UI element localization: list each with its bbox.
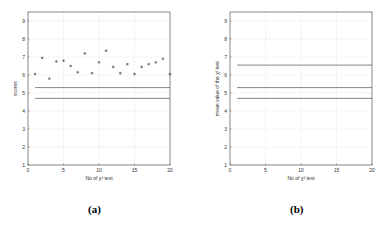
caption-b: (b) <box>290 203 303 215</box>
x-axis-label: No of χ² test <box>287 175 315 181</box>
x-tick-label: 10 <box>96 167 102 173</box>
x-tick-label: 20 <box>167 167 173 173</box>
x-tick-label: 0 <box>27 167 30 173</box>
data-point-marker <box>62 59 65 62</box>
y-tick-label: 6 <box>224 72 227 78</box>
data-point-marker <box>133 73 136 76</box>
x-tick-label: 5 <box>264 167 267 173</box>
data-point-marker <box>126 63 129 66</box>
y-tick-label: 6 <box>22 72 25 78</box>
data-point-marker <box>48 77 51 80</box>
caption-a: (a) <box>88 203 101 215</box>
y-tick-label: 8 <box>22 36 25 42</box>
y-tick-label: 2 <box>224 144 227 150</box>
x-tick-label: 0 <box>229 167 232 173</box>
y-tick-label: 9 <box>224 18 227 24</box>
data-point-marker <box>155 61 158 64</box>
y-tick-label: 9 <box>22 18 25 24</box>
data-point-marker <box>34 73 37 76</box>
data-point-marker <box>91 72 94 75</box>
data-point-marker <box>112 66 115 69</box>
data-point-marker <box>41 57 44 60</box>
data-point-marker <box>140 66 143 69</box>
data-point-marker <box>119 72 122 75</box>
scatter-plot-scores: 05101520123456789No of χ² testscores <box>0 0 195 200</box>
data-point-marker <box>76 71 79 74</box>
y-tick-label: 5 <box>224 90 227 96</box>
y-axis-label: scores <box>12 81 18 96</box>
y-axis-label: mean value of the χ² test <box>214 60 220 115</box>
data-point-marker <box>147 63 150 66</box>
y-tick-label: 5 <box>22 90 25 96</box>
x-tick-label: 10 <box>298 167 304 173</box>
data-point-marker <box>169 73 172 76</box>
x-tick-label: 5 <box>62 167 65 173</box>
x-axis-label: No of χ² test <box>85 175 113 181</box>
data-point-marker <box>98 61 101 64</box>
y-tick-label: 3 <box>22 126 25 132</box>
chart-panel-a: 05101520123456789No of χ² testscores <box>0 0 195 200</box>
y-tick-label: 1 <box>22 162 25 168</box>
x-tick-label: 20 <box>369 167 375 173</box>
y-tick-label: 3 <box>224 126 227 132</box>
line-plot-mean-value: 05101520123456789No of χ² testmean value… <box>200 0 391 200</box>
data-point-marker <box>84 52 87 55</box>
x-tick-label: 15 <box>334 167 340 173</box>
y-tick-label: 7 <box>224 54 227 60</box>
data-point-marker <box>69 65 72 68</box>
y-tick-label: 8 <box>224 36 227 42</box>
y-tick-label: 1 <box>224 162 227 168</box>
x-tick-label: 15 <box>132 167 138 173</box>
data-point-marker <box>55 60 58 63</box>
y-tick-label: 4 <box>22 108 25 114</box>
y-tick-label: 2 <box>22 144 25 150</box>
data-point-marker <box>105 49 108 52</box>
chart-panel-b: 05101520123456789No of χ² testmean value… <box>200 0 391 200</box>
data-point-marker <box>162 58 165 61</box>
y-tick-label: 7 <box>22 54 25 60</box>
y-tick-label: 4 <box>224 108 227 114</box>
